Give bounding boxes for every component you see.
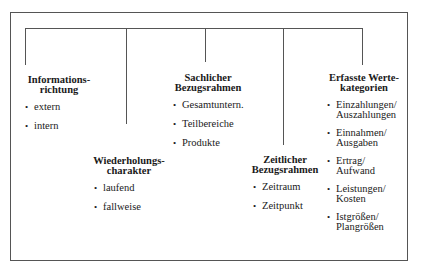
item-text: Gesamtuntern. [182, 100, 244, 110]
bullet-icon: • [327, 212, 330, 222]
item-text: Zeitpunkt [262, 201, 303, 211]
group-informationsrichtung: Informations- richtung •extern •intern [24, 75, 94, 131]
group-title: Wiederholungs- charakter [91, 156, 167, 176]
connector-top-bar [25, 28, 363, 29]
item-text: Kosten [336, 194, 386, 204]
item-text: intern [34, 121, 59, 131]
bullet-icon: • [25, 121, 28, 131]
group-zeitlicher-bezugsrahmen: Zeitlicher Bezugsrahmen •Zeitraum •Zeitp… [250, 155, 320, 211]
title-line: kategorien [324, 83, 404, 93]
item-list: •laufend •fallweise [93, 183, 167, 212]
item-text: Ausgaben [336, 138, 387, 148]
connector-wiederholungscharakter [126, 28, 127, 124]
list-item: •Leistungen/Kosten [326, 184, 404, 204]
list-item: •Produkte [172, 138, 246, 148]
list-item: •Einzahlungen/Auszahlungen [326, 100, 404, 120]
list-item: •extern [24, 102, 94, 112]
item-list: •Einzahlungen/Auszahlungen •Einnahmen/Au… [326, 100, 404, 232]
title-line: charakter [91, 166, 167, 176]
item-list: •extern •intern [24, 102, 94, 131]
title-line: Bezugsrahmen [250, 165, 320, 175]
list-item: •Zeitpunkt [252, 201, 320, 211]
item-text: laufend [103, 183, 135, 193]
connector-erfasste-wertekategorien [362, 28, 363, 65]
bullet-icon: • [253, 201, 256, 211]
list-item: •Gesamtuntern. [172, 100, 246, 110]
group-title: Sachlicher Bezugsrahmen [170, 73, 246, 93]
item-text: extern [34, 102, 60, 112]
bullet-icon: • [94, 202, 97, 212]
connector-informationsrichtung [25, 28, 26, 65]
bullet-icon: • [94, 183, 97, 193]
item-text: Zeitraum [262, 182, 300, 192]
bullet-icon: • [327, 184, 330, 194]
item-text: Teilbereiche [182, 119, 234, 129]
bullet-icon: • [173, 100, 176, 110]
list-item: •Zeitraum [252, 182, 320, 192]
title-line: Bezugsrahmen [170, 83, 246, 93]
list-item: •Istgrößen/Plangrößen [326, 212, 404, 232]
bullet-icon: • [173, 119, 176, 129]
list-item: •fallweise [93, 202, 167, 212]
bullet-icon: • [327, 156, 330, 166]
item-text: Produkte [182, 138, 220, 148]
group-wiederholungscharakter: Wiederholungs- charakter •laufend •fallw… [91, 156, 167, 212]
bullet-icon: • [25, 102, 28, 112]
item-list: •Gesamtuntern. •Teilbereiche •Produkte [172, 100, 246, 148]
group-erfasste-wertekategorien: Erfasste Werte- kategorien •Einzahlungen… [324, 73, 404, 232]
list-item: •Einnahmen/Ausgaben [326, 128, 404, 148]
bullet-icon: • [327, 100, 330, 110]
item-list: •Zeitraum •Zeitpunkt [252, 182, 320, 211]
connector-zeitlicher-bezugsrahmen [283, 28, 284, 145]
group-title: Zeitlicher Bezugsrahmen [250, 155, 320, 175]
list-item: •Teilbereiche [172, 119, 246, 129]
title-line: richtung [24, 85, 94, 95]
list-item: •laufend [93, 183, 167, 193]
group-title: Informations- richtung [24, 75, 94, 95]
bullet-icon: • [253, 182, 256, 192]
item-text: Aufwand [336, 166, 375, 176]
item-text: fallweise [103, 202, 141, 212]
list-item: •Ertrag/Aufwand [326, 156, 404, 176]
list-item: •intern [24, 121, 94, 131]
bullet-icon: • [173, 138, 176, 148]
connector-sachlicher-bezugsrahmen [205, 28, 206, 62]
bullet-icon: • [327, 128, 330, 138]
group-title: Erfasste Werte- kategorien [324, 73, 404, 93]
item-text: Plangrößen [336, 222, 384, 232]
group-sachlicher-bezugsrahmen: Sachlicher Bezugsrahmen •Gesamtuntern. •… [170, 73, 246, 148]
item-text: Auszahlungen [336, 110, 397, 120]
